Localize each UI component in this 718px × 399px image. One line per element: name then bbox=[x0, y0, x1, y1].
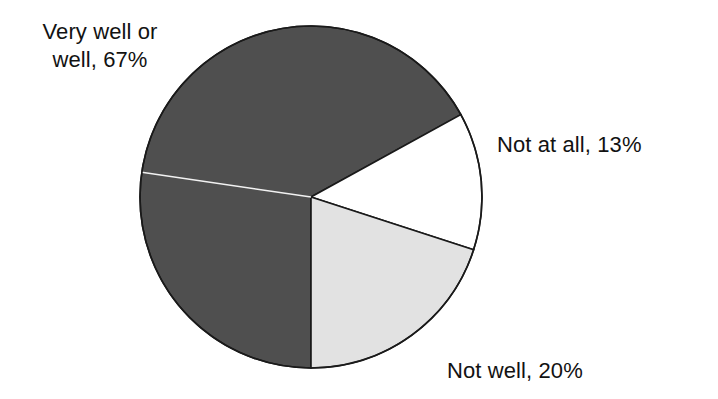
pie-label-not-well: Not well, 20% bbox=[447, 357, 583, 385]
pie-label-not-at-all: Not at all, 13% bbox=[497, 131, 642, 159]
pie-label-very-well-or-well-line1: Very well or bbox=[43, 19, 158, 44]
pie-chart-figure: Very well orwell, 67% Not at all, 13% No… bbox=[0, 0, 718, 399]
pie-label-very-well-or-well: Very well orwell, 67% bbox=[14, 18, 186, 74]
pie-label-very-well-or-well-line2: well, 67% bbox=[52, 47, 147, 72]
